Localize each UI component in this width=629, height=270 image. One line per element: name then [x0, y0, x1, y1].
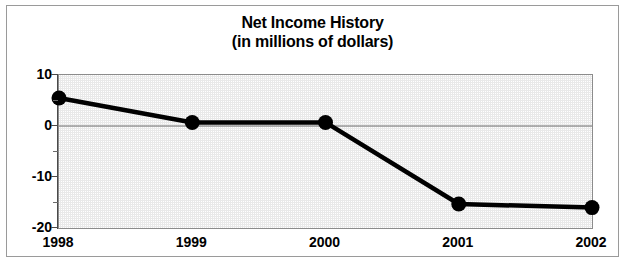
y-minor-tick	[53, 202, 58, 203]
x-tick-label: 1998	[42, 234, 73, 250]
y-tick-label: 10	[36, 66, 52, 82]
x-tick-label: 2000	[309, 234, 340, 250]
y-tick-label: -10	[32, 168, 52, 184]
x-axis-labels: 19981999200020012002	[58, 234, 593, 258]
chart-title-block: Net Income History (in millions of dolla…	[7, 14, 618, 52]
series-plot	[59, 75, 592, 228]
chart-subtitle: (in millions of dollars)	[7, 33, 618, 52]
chart-figure: Net Income History (in millions of dolla…	[6, 5, 619, 257]
data-point-marker	[185, 115, 200, 130]
y-minor-tick	[53, 100, 58, 101]
data-point-marker	[318, 115, 333, 130]
y-axis-labels: 100-10-20	[7, 74, 52, 227]
y-minor-tick	[53, 151, 58, 152]
data-point-marker	[52, 90, 67, 105]
chart-title: Net Income History	[7, 14, 618, 33]
x-tick-label: 2001	[442, 234, 473, 250]
y-major-tick	[51, 227, 58, 228]
data-point-marker	[451, 197, 466, 212]
y-major-tick	[51, 176, 58, 177]
x-tick-label: 1999	[176, 234, 207, 250]
y-tick-label: -20	[32, 219, 52, 235]
y-major-tick	[51, 74, 58, 75]
plot-area	[58, 74, 593, 229]
x-tick-label: 2002	[575, 234, 606, 250]
y-major-tick	[51, 125, 58, 126]
data-point-marker	[585, 200, 600, 215]
series-line	[59, 98, 592, 208]
